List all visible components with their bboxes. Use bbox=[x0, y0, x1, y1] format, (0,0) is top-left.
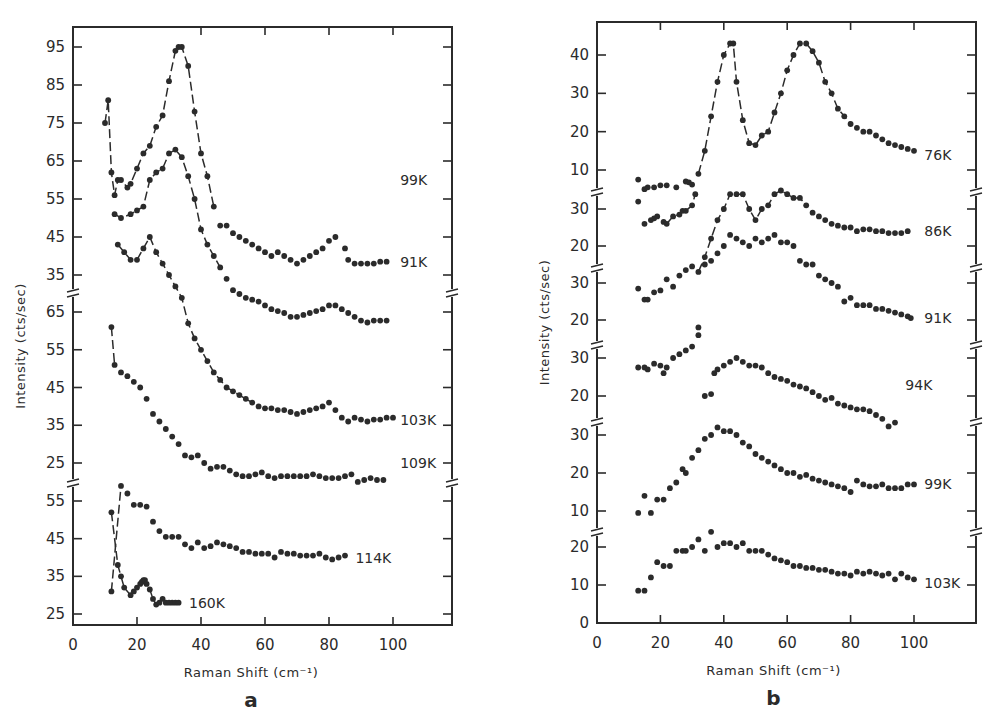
data-point bbox=[185, 320, 191, 326]
data-point bbox=[822, 217, 828, 223]
data-point bbox=[734, 79, 740, 85]
data-point bbox=[829, 395, 835, 401]
data-point bbox=[778, 376, 784, 382]
data-point bbox=[317, 473, 323, 479]
data-point bbox=[797, 195, 803, 201]
data-point bbox=[702, 262, 708, 268]
data-point bbox=[708, 391, 714, 397]
y-tick-label: 20 bbox=[570, 237, 589, 255]
y-tick-label: 25 bbox=[46, 454, 65, 472]
data-point bbox=[765, 552, 771, 558]
data-point bbox=[740, 359, 746, 365]
data-point bbox=[670, 214, 676, 220]
series-label: 99K bbox=[924, 476, 952, 492]
data-point bbox=[645, 184, 651, 190]
data-point bbox=[320, 404, 326, 410]
data-point bbox=[237, 234, 243, 240]
data-point bbox=[727, 540, 733, 546]
data-point bbox=[816, 567, 822, 573]
data-point bbox=[272, 555, 278, 561]
series-label: 91K bbox=[400, 254, 428, 270]
data-point bbox=[304, 473, 310, 479]
series-91K: 91K bbox=[635, 232, 952, 330]
y-tick-label: 35 bbox=[46, 567, 65, 585]
data-point bbox=[810, 565, 816, 571]
data-point bbox=[696, 447, 702, 453]
data-point bbox=[333, 234, 339, 240]
data-point bbox=[848, 573, 854, 579]
x-axis-title: Raman Shift (cm⁻¹) bbox=[706, 663, 840, 678]
y-tick-label: 10 bbox=[570, 502, 589, 520]
data-point bbox=[326, 303, 332, 309]
data-point bbox=[297, 473, 303, 479]
data-point bbox=[803, 472, 809, 478]
data-point bbox=[166, 78, 172, 84]
data-point bbox=[635, 365, 641, 371]
data-point bbox=[746, 444, 752, 450]
data-point bbox=[173, 284, 179, 290]
series-label: 94K bbox=[905, 377, 933, 393]
data-point bbox=[198, 151, 204, 157]
data-point bbox=[205, 358, 211, 364]
data-point bbox=[390, 415, 396, 421]
data-point bbox=[635, 199, 641, 205]
data-point bbox=[661, 563, 667, 569]
data-point bbox=[816, 393, 822, 399]
data-point bbox=[281, 407, 287, 413]
data-point bbox=[791, 195, 797, 201]
data-point bbox=[759, 133, 765, 139]
data-point bbox=[898, 571, 904, 577]
data-point bbox=[797, 384, 803, 390]
data-point bbox=[778, 466, 784, 472]
data-point bbox=[664, 182, 670, 188]
data-point bbox=[635, 286, 641, 292]
data-point bbox=[246, 549, 252, 555]
data-point bbox=[721, 206, 727, 212]
y-tick-label: 30 bbox=[570, 200, 589, 218]
data-point bbox=[791, 470, 797, 476]
data-point bbox=[708, 113, 714, 119]
data-point bbox=[727, 232, 733, 238]
data-point bbox=[240, 473, 246, 479]
data-point bbox=[829, 90, 835, 96]
y-tick-label: 85 bbox=[46, 76, 65, 94]
data-point bbox=[352, 261, 358, 267]
raman-spectra-figure: 020406080100Raman Shift (cm⁻¹)aIntensity… bbox=[0, 0, 998, 718]
data-point bbox=[115, 562, 121, 568]
data-point bbox=[892, 310, 898, 316]
data-point bbox=[734, 236, 740, 242]
data-point bbox=[166, 151, 172, 157]
data-point bbox=[898, 312, 904, 318]
fit-line bbox=[111, 327, 114, 365]
data-point bbox=[715, 367, 721, 373]
data-point bbox=[211, 204, 217, 210]
data-point bbox=[822, 276, 828, 282]
data-point bbox=[265, 551, 271, 557]
data-point bbox=[772, 463, 778, 469]
data-point bbox=[708, 258, 714, 264]
data-point bbox=[147, 177, 153, 183]
data-point bbox=[329, 557, 335, 563]
data-point bbox=[192, 196, 198, 202]
data-point bbox=[905, 482, 911, 488]
data-point bbox=[784, 470, 790, 476]
data-point bbox=[654, 497, 660, 503]
data-point bbox=[176, 441, 182, 447]
data-point bbox=[310, 471, 316, 477]
data-point bbox=[262, 249, 268, 255]
data-point bbox=[658, 363, 664, 369]
data-point bbox=[195, 540, 201, 546]
data-point bbox=[259, 551, 265, 557]
series-label: 109K bbox=[400, 455, 437, 471]
data-point bbox=[810, 389, 816, 395]
data-point bbox=[854, 125, 860, 131]
data-point bbox=[673, 480, 679, 486]
data-point bbox=[886, 424, 892, 430]
data-point bbox=[683, 470, 689, 476]
y-tick-label: 35 bbox=[46, 266, 65, 284]
data-point bbox=[243, 295, 249, 301]
data-point bbox=[323, 555, 329, 561]
series-label: 114K bbox=[355, 550, 392, 566]
data-point bbox=[275, 407, 281, 413]
data-point bbox=[345, 419, 351, 425]
